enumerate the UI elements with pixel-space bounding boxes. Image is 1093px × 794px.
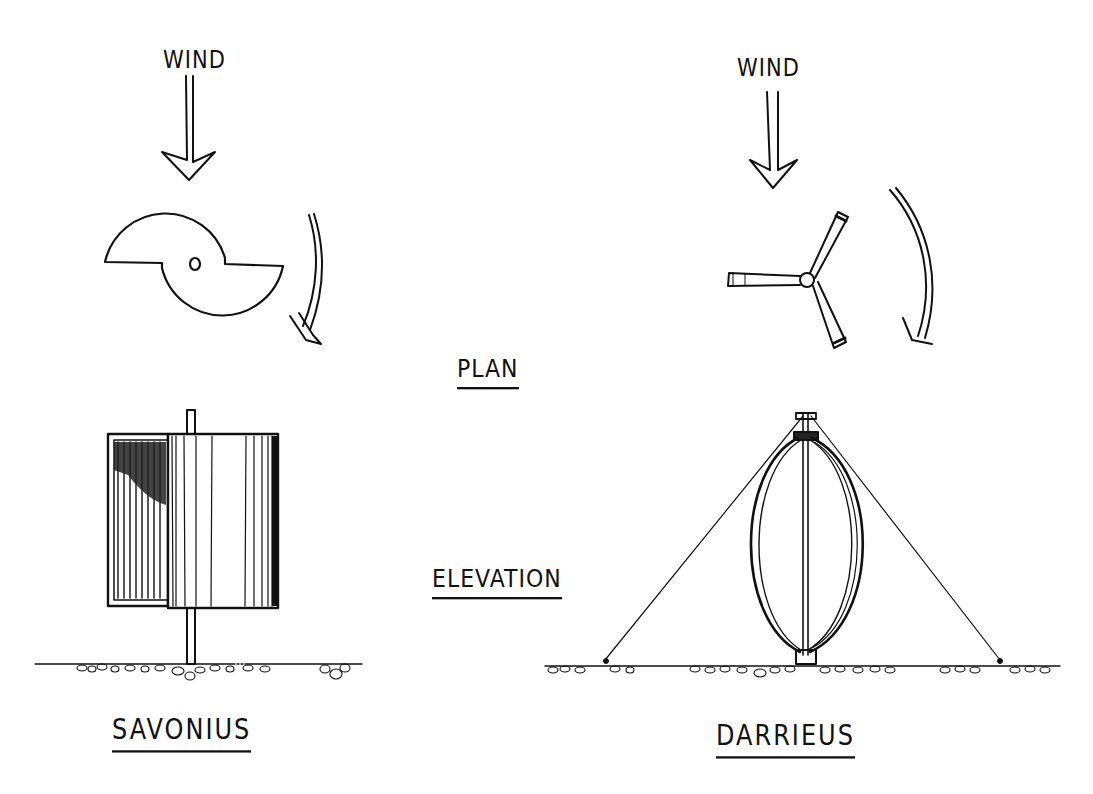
- savonius-plan-rotor: [105, 213, 283, 315]
- wind-label-left: WIND: [163, 46, 226, 74]
- rotation-arrow-left-icon: [290, 214, 322, 344]
- wind-arrow-left-icon: [162, 76, 215, 180]
- plan-section-label: PLAN: [457, 354, 519, 390]
- darrieus-plan-rotor: [728, 212, 848, 348]
- wind-label-right: WIND: [737, 54, 800, 82]
- darrieus-elevation: [604, 413, 1003, 664]
- wind-arrow-right-icon: [750, 92, 797, 188]
- darrieus-title: DARRIEUS: [716, 719, 855, 758]
- savonius-title: SAVONIUS: [112, 713, 251, 752]
- rotation-arrow-right-icon: [890, 188, 932, 344]
- savonius-elevation: [108, 410, 278, 664]
- elevation-section-label: ELEVATION: [432, 564, 562, 600]
- darrieus-ground-line: [545, 666, 1060, 677]
- wind-turbine-diagram: [0, 0, 1093, 794]
- savonius-ground-line: [35, 664, 362, 680]
